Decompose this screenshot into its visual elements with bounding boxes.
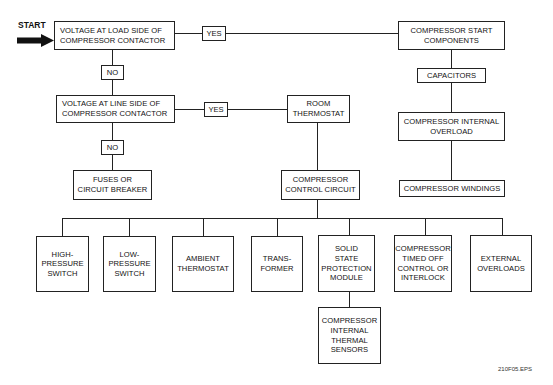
line-bus-solid-state <box>349 218 350 236</box>
line-bus <box>62 218 502 219</box>
node-text: TRANS- FORMER <box>260 254 293 273</box>
line-bus-low <box>129 218 130 236</box>
node-transformer: TRANS- FORMER <box>251 236 303 292</box>
node-external-overloads: EXTERNAL OVERLOADS <box>470 235 532 292</box>
node-text: COMPRESSOR WINDINGS <box>404 184 501 194</box>
node-text: VOLTAGE AT LINE SIDE OF COMPRESSOR CONTA… <box>62 99 167 118</box>
line-bus-transformer <box>277 218 278 236</box>
node-text: EXTERNAL OVERLOADS <box>477 254 525 273</box>
node-text: COMPRESSOR INTERNAL OVERLOAD <box>404 117 499 136</box>
node-capacitors: CAPACITORS <box>417 68 486 83</box>
yes-text-1: YES <box>206 29 221 38</box>
line-bus-external <box>502 218 503 236</box>
node-windings: COMPRESSOR WINDINGS <box>399 180 505 197</box>
node-voltage-line-side: VOLTAGE AT LINE SIDE OF COMPRESSOR CONTA… <box>56 95 175 123</box>
node-room-thermostat: ROOM THERMOSTAT <box>287 95 350 123</box>
node-text: COMPRESSOR INTERNAL THERMAL SENSORS <box>322 316 377 354</box>
start-label: START <box>18 20 46 30</box>
line-bus-ambient <box>203 218 204 236</box>
node-text: LOW- PRESSURE SWITCH <box>108 250 150 279</box>
line-bus-high <box>62 218 63 236</box>
node-text: COMPRESSOR START COMPONENTS <box>411 26 493 45</box>
node-text: FUSES OR CIRCUIT BREAKER <box>78 175 148 194</box>
node-low-pressure-switch: LOW- PRESSURE SWITCH <box>103 236 156 292</box>
node-text: SOLID STATE PROTECTION MODULE <box>321 244 371 282</box>
no-label-1: NO <box>101 65 124 80</box>
yes-text-2: YES <box>208 105 223 114</box>
node-fuses: FUSES OR CIRCUIT BREAKER <box>73 170 152 200</box>
node-internal-overload: COMPRESSOR INTERNAL OVERLOAD <box>398 112 505 141</box>
node-voltage-load-side: VOLTAGE AT LOAD SIDE OF COMPRESSOR CONTA… <box>54 21 175 50</box>
line-bus-timed-off <box>425 218 426 236</box>
line-line-to-room <box>175 109 287 110</box>
node-control-circuit: COMPRESSOR CONTROL CIRCUIT <box>281 170 360 200</box>
no-text-2: NO <box>107 143 118 152</box>
start-arrow-icon <box>17 34 55 47</box>
yes-label-1: YES <box>202 26 226 41</box>
node-text: CAPACITORS <box>427 71 476 81</box>
line-control-to-bus <box>317 200 318 218</box>
node-thermal-sensors: COMPRESSOR INTERNAL THERMAL SENSORS <box>318 307 381 364</box>
yes-label-2: YES <box>204 102 228 117</box>
node-text: COMPRESSOR CONTROL CIRCUIT <box>285 175 356 194</box>
line-room-to-control <box>317 123 318 170</box>
node-start-components: COMPRESSOR START COMPONENTS <box>398 21 505 50</box>
node-ambient-thermostat: AMBIENT THERMOSTAT <box>172 236 234 292</box>
line-solid-to-sensors <box>349 292 350 307</box>
node-text: ROOM THERMOSTAT <box>293 99 345 118</box>
node-timed-off-control: COMPRESSOR TIMED OFF CONTROL OR INTERLOC… <box>394 235 452 292</box>
node-solid-state-module: SOLID STATE PROTECTION MODULE <box>318 235 375 292</box>
no-text-1: NO <box>107 68 118 77</box>
no-label-2: NO <box>101 140 124 155</box>
figure-id-label: 210F05.EPS <box>498 366 532 372</box>
node-text: AMBIENT THERMOSTAT <box>177 254 229 273</box>
node-text: COMPRESSOR TIMED OFF CONTROL OR INTERLOC… <box>395 244 450 282</box>
node-text: VOLTAGE AT LOAD SIDE OF COMPRESSOR CONTA… <box>60 26 165 45</box>
node-text: HIGH- PRESSURE SWITCH <box>41 250 83 279</box>
node-high-pressure-switch: HIGH- PRESSURE SWITCH <box>36 236 89 292</box>
